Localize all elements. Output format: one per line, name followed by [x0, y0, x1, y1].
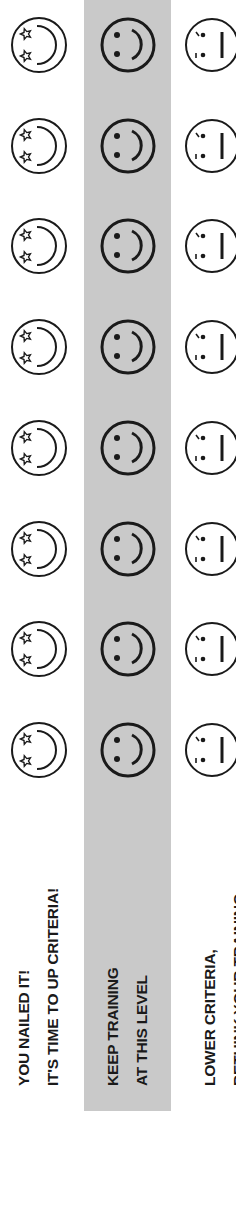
meh-face-icon: [182, 216, 236, 280]
star-eyes-face-icon: [9, 619, 69, 683]
smiley-face-icon: [98, 418, 158, 482]
star-eyes-face-icon: [9, 15, 69, 79]
star-eyes-face-icon: [9, 418, 69, 482]
row-label-lower-criteria: LOWER CRITERIA, RETHINK YOUR TRAINING: [201, 893, 236, 1086]
label-line: YOU NAILED IT!: [15, 888, 32, 1086]
label-line: KEEP TRAINING: [104, 967, 121, 1086]
meh-face-icon: [182, 519, 236, 583]
meh-face-icon: [182, 720, 236, 784]
star-eyes-face-icon: [9, 216, 69, 280]
smiley-face-icon: [98, 15, 158, 79]
star-eyes-face-icon: [9, 519, 69, 583]
star-eyes-face-icon: [9, 116, 69, 180]
meh-face-icon: [182, 317, 236, 381]
smiley-face-icon: [98, 317, 158, 381]
meh-face-icon: [182, 116, 236, 180]
smiley-face-icon: [98, 116, 158, 180]
label-line: AT THIS LEVEL: [133, 967, 150, 1086]
label-line: IT'S TIME TO UP CRITERIA!: [44, 888, 61, 1086]
row-label-keep-training: KEEP TRAINING AT THIS LEVEL: [104, 967, 150, 1086]
smiley-face-icon: [98, 619, 158, 683]
label-line: LOWER CRITERIA,: [201, 893, 218, 1086]
star-eyes-face-icon: [9, 317, 69, 381]
star-eyes-face-icon: [9, 720, 69, 784]
smiley-face-icon: [98, 216, 158, 280]
row-label-up-criteria: YOU NAILED IT! IT'S TIME TO UP CRITERIA!: [15, 888, 61, 1086]
smiley-face-icon: [98, 720, 158, 784]
meh-face-icon: [182, 418, 236, 482]
label-line: RETHINK YOUR TRAINING: [230, 893, 236, 1086]
smiley-face-icon: [98, 519, 158, 583]
meh-face-icon: [182, 619, 236, 683]
meh-face-icon: [182, 15, 236, 79]
